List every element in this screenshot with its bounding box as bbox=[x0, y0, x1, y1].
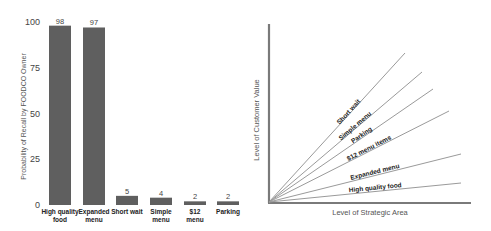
category-label: menu bbox=[85, 216, 102, 223]
customer-value-line-chart: Level of Strategic AreaLevel of Customer… bbox=[250, 0, 491, 231]
y-tick-label: 0 bbox=[35, 200, 40, 210]
y-axis-label: Level of Customer Value bbox=[252, 79, 261, 161]
category-label: Parking bbox=[216, 208, 240, 216]
bar bbox=[83, 27, 105, 205]
bar-value-label: 2 bbox=[193, 192, 197, 201]
bar-value-label: 97 bbox=[90, 18, 98, 27]
bar bbox=[150, 198, 172, 205]
line-label: High quality food bbox=[348, 181, 402, 194]
bar-value-label: 2 bbox=[226, 192, 230, 201]
bar-value-label: 5 bbox=[125, 187, 129, 196]
category-label: menu bbox=[152, 216, 169, 223]
category-label: food bbox=[53, 216, 67, 223]
category-label: $12 bbox=[190, 208, 201, 216]
category-label: Simple bbox=[150, 208, 172, 216]
category-label: menu bbox=[186, 216, 203, 223]
recall-bar-chart: 0255075100Probability of Recall by FOODC… bbox=[0, 0, 250, 231]
y-axis-label: Probability of Recall by FOODCO Owner bbox=[20, 53, 28, 180]
y-tick-label: 25 bbox=[30, 154, 40, 164]
line-label: Expanded menu bbox=[350, 162, 401, 182]
line-chart-canvas: Level of Strategic AreaLevel of Customer… bbox=[250, 0, 491, 231]
bar-value-label: 98 bbox=[56, 17, 64, 26]
category-label: Short wait bbox=[111, 208, 143, 215]
x-axis-label: Level of Strategic Area bbox=[332, 208, 408, 217]
bar bbox=[184, 201, 206, 205]
bar bbox=[116, 196, 138, 205]
bar-value-label: 4 bbox=[159, 189, 163, 198]
value-line bbox=[269, 53, 405, 202]
category-label: High quality bbox=[41, 208, 79, 216]
y-tick-label: 75 bbox=[30, 63, 40, 73]
bar bbox=[217, 201, 239, 205]
bar bbox=[49, 26, 71, 205]
y-tick-label: 50 bbox=[30, 109, 40, 119]
bar-chart-canvas: 0255075100Probability of Recall by FOODC… bbox=[0, 0, 250, 231]
y-tick-label: 100 bbox=[25, 17, 40, 27]
category-label: Expanded bbox=[78, 208, 109, 216]
